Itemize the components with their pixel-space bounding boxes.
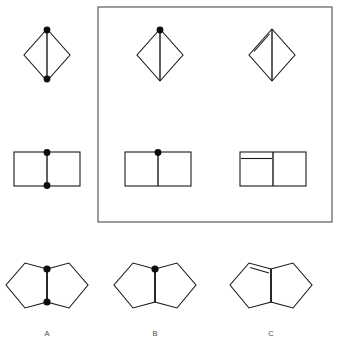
rectangle-prompt xyxy=(14,149,80,189)
option-label-c: C xyxy=(268,329,274,338)
diamond-prompt xyxy=(24,27,70,83)
bicyclic-b[interactable] xyxy=(114,263,196,308)
diamond-option-1[interactable] xyxy=(137,27,183,81)
vertex-dot-bottom xyxy=(44,182,51,189)
bicyclic-c[interactable] xyxy=(230,263,312,308)
bicyclic-left-ring xyxy=(114,263,155,308)
bicyclic-left-ring xyxy=(230,263,271,308)
vertex-dot-top xyxy=(157,27,164,34)
figure-canvas: A B C xyxy=(0,0,340,346)
answer-box-frame xyxy=(98,7,332,222)
vertex-dot-top xyxy=(44,27,51,34)
diamond-option-2[interactable] xyxy=(249,29,295,81)
vertex-dot-top xyxy=(155,149,162,156)
option-label-a: A xyxy=(44,329,49,338)
bicyclic-right-ring xyxy=(271,263,312,308)
vertex-dot-top xyxy=(151,265,158,272)
vertex-dot-top xyxy=(44,149,51,156)
puzzle-figure: A B C xyxy=(0,0,340,346)
bicyclic-left-ring xyxy=(6,263,47,308)
bicyclic-right-ring xyxy=(155,263,196,308)
bicyclic-a[interactable] xyxy=(6,263,88,308)
vertex-dot-top xyxy=(43,265,50,272)
rectangle-option-2[interactable] xyxy=(240,152,306,186)
bicyclic-double-bond-inner xyxy=(250,268,269,274)
rectangle-option-1[interactable] xyxy=(125,149,191,186)
option-label-b: B xyxy=(152,329,157,338)
vertex-dot-bottom xyxy=(44,76,51,83)
bicyclic-right-ring xyxy=(47,263,88,308)
vertex-dot-bottom xyxy=(43,298,50,305)
diamond-double-bond-inner xyxy=(254,34,270,52)
